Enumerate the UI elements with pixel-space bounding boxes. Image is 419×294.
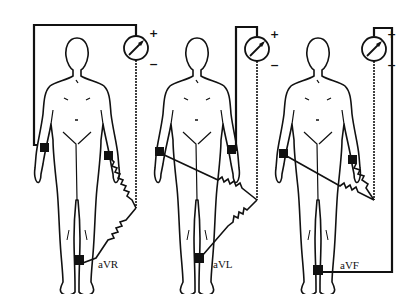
panel-avl (155, 27, 280, 294)
electrode-right-arm (155, 147, 164, 156)
galvanometer-icon (124, 27, 158, 71)
electrode-right-arm (40, 143, 49, 152)
panel-avf (276, 28, 397, 294)
lead-label-avf: aVF (340, 259, 359, 271)
electrode-left-leg (194, 253, 204, 263)
galvanometer-icon (245, 28, 279, 72)
lead-diagram: + − (0, 0, 419, 294)
electrode-left-arm (227, 145, 236, 154)
positive-wire (322, 28, 392, 272)
electrode-left-leg (74, 255, 84, 265)
electrode-right-arm (279, 149, 288, 158)
lead-label-avr: aVR (98, 258, 118, 270)
panel-avr (34, 25, 158, 294)
electrode-left-arm (348, 155, 357, 164)
lead-label-avl: aVL (213, 258, 233, 270)
electrode-left-leg (313, 265, 323, 275)
human-figure-icon (276, 38, 361, 294)
electrode-left-arm (104, 151, 113, 160)
